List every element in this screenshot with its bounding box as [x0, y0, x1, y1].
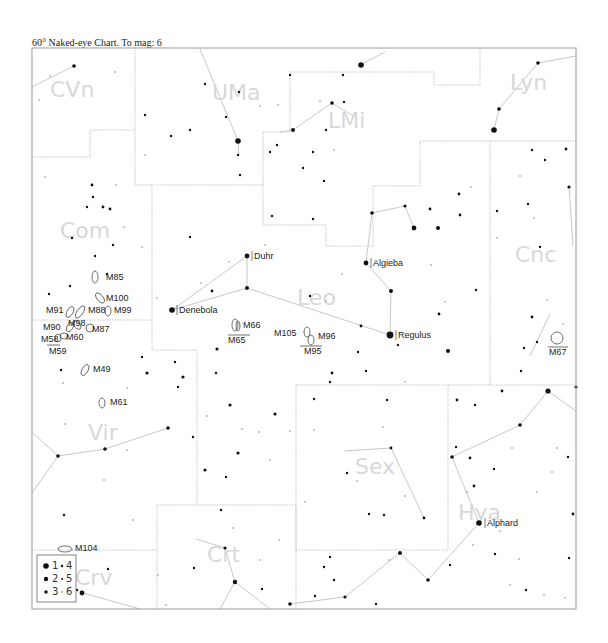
- label-lmi: LMi: [328, 108, 365, 133]
- m61-label[interactable]: M61: [110, 397, 128, 407]
- m87-label[interactable]: M87: [92, 324, 110, 334]
- label-crv: Crv: [75, 565, 112, 590]
- star-chart[interactable]: CVn UMa LMi Lyn Com Leo Cnc Vir Sex Hya …: [0, 0, 608, 643]
- legend-mag-4: 4: [66, 560, 72, 571]
- label-com: Com: [60, 218, 110, 243]
- alphard-label: Alphard: [487, 518, 518, 528]
- label-uma: UMa: [212, 80, 261, 105]
- m95-label[interactable]: M95: [304, 346, 322, 356]
- m99-label[interactable]: M99: [114, 305, 132, 315]
- label-crt: Crt: [207, 542, 240, 567]
- label-cnc: Cnc: [515, 242, 556, 267]
- magnitude-legend: 1 4 2 5 3 6: [37, 555, 76, 602]
- m66-label[interactable]: M66: [243, 320, 261, 330]
- m100-label[interactable]: M100: [106, 293, 129, 303]
- m98-label[interactable]: M98: [68, 318, 86, 328]
- m91-label[interactable]: M91: [46, 305, 64, 315]
- algieba-label: Algieba: [373, 258, 403, 268]
- m104-label[interactable]: M104: [75, 543, 98, 553]
- legend-mag-5: 5: [66, 573, 72, 584]
- label-sex: Sex: [355, 454, 395, 479]
- label-leo: Leo: [297, 285, 336, 310]
- denebola-label: Denebola: [179, 305, 218, 315]
- legend-mag-6: 6: [66, 586, 72, 597]
- m85-label[interactable]: M85: [106, 272, 124, 282]
- m60-label[interactable]: M60: [66, 332, 84, 342]
- star-alphard[interactable]: Alphard: [485, 518, 518, 528]
- legend-mag-1: 1: [52, 560, 58, 571]
- m67-label[interactable]: M67: [549, 347, 567, 357]
- legend-mag-3: 3: [52, 586, 58, 597]
- duhr-label: Duhr: [254, 251, 274, 261]
- constellation-labels: CVn UMa LMi Lyn Com Leo Cnc Vir Sex Hya …: [50, 70, 556, 590]
- star-algieba[interactable]: Algieba: [371, 258, 403, 268]
- m58-label[interactable]: M58: [41, 334, 59, 344]
- label-cvn: CVn: [50, 77, 94, 102]
- regulus-label: Regulus: [398, 330, 432, 340]
- m88-label[interactable]: M88: [88, 305, 106, 315]
- m59-label[interactable]: M59: [49, 346, 67, 356]
- star-regulus[interactable]: Regulus: [396, 330, 432, 340]
- legend-mag-2: 2: [52, 573, 58, 584]
- star-denebola[interactable]: Denebola: [177, 305, 218, 315]
- star-duhr[interactable]: Duhr: [252, 251, 274, 261]
- m96-label[interactable]: M96: [318, 331, 336, 341]
- named-star-labels: Duhr Algieba Denebola Regulus Alphard: [177, 251, 518, 528]
- m65-label[interactable]: M65: [228, 335, 246, 345]
- label-vir: Vir: [88, 420, 119, 445]
- m49-label[interactable]: M49: [93, 364, 111, 374]
- m90-label[interactable]: M90: [43, 322, 61, 332]
- m105-label[interactable]: M105: [274, 328, 297, 338]
- label-lyn: Lyn: [510, 70, 547, 95]
